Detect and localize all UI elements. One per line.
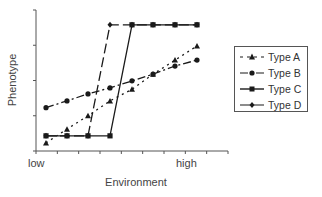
series-type-b bbox=[43, 57, 199, 110]
triangle-marker-icon bbox=[239, 52, 265, 62]
legend-label: Type B bbox=[268, 67, 301, 79]
data-point bbox=[43, 140, 49, 146]
data-point bbox=[107, 98, 113, 104]
data-point bbox=[129, 86, 135, 92]
data-point bbox=[43, 105, 48, 110]
data-point bbox=[64, 98, 69, 103]
data-point bbox=[172, 57, 178, 63]
series-type-a bbox=[43, 43, 200, 145]
series-group bbox=[43, 22, 200, 146]
legend-item-type-c: Type C bbox=[239, 82, 301, 96]
data-point bbox=[107, 85, 112, 90]
data-point bbox=[108, 22, 113, 28]
y-axis-label: Phenotype bbox=[6, 50, 18, 110]
data-point bbox=[129, 78, 134, 83]
series-type-c bbox=[43, 22, 199, 138]
x-axis-label: Environment bbox=[96, 176, 176, 188]
data-point bbox=[107, 133, 112, 138]
legend: Type A Type B Type C Type D bbox=[234, 46, 308, 112]
legend-item-type-b: Type B bbox=[239, 66, 301, 80]
data-point bbox=[64, 126, 70, 132]
legend-item-type-d: Type D bbox=[239, 98, 301, 112]
diamond-marker-icon bbox=[239, 100, 265, 110]
circle-marker-icon bbox=[239, 68, 265, 78]
legend-label: Type C bbox=[268, 83, 301, 95]
square-marker-icon bbox=[239, 84, 265, 94]
legend-label: Type A bbox=[268, 51, 300, 63]
legend-item-type-a: Type A bbox=[239, 50, 300, 64]
x-tick-low: low bbox=[28, 157, 45, 169]
data-point bbox=[85, 113, 91, 119]
data-point bbox=[194, 57, 199, 62]
data-point bbox=[172, 63, 177, 68]
data-point bbox=[194, 43, 200, 49]
x-tick-high: high bbox=[176, 157, 197, 169]
data-point bbox=[150, 72, 155, 77]
legend-label: Type D bbox=[268, 99, 301, 111]
data-point bbox=[85, 91, 90, 96]
